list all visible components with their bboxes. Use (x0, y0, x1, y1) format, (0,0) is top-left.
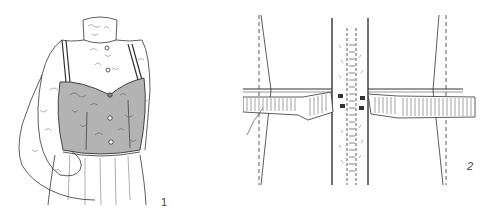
figure-2-waistband-detail: 2 (243, 0, 487, 215)
figure-2-label: 2 (467, 160, 473, 172)
zipper-teeth (349, 45, 355, 171)
blouse-drawing (0, 0, 243, 215)
figure-1-label: 1 (161, 196, 167, 208)
waistband-drawing (243, 0, 487, 215)
hook-and-eye-closures (338, 94, 365, 110)
figure-1-blouse-illustration: 1 (0, 0, 243, 215)
